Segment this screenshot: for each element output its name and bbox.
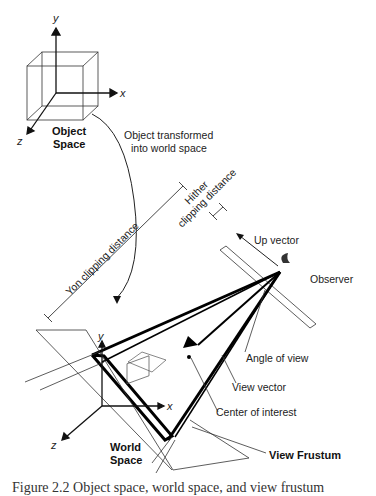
world-box	[127, 352, 166, 384]
view-vector-arrow-icon	[183, 336, 198, 348]
yon-label: Yon clipping distance	[63, 219, 141, 297]
angle-of-view-label: Angle of view	[246, 352, 309, 364]
view-vector-label: View vector	[232, 381, 287, 393]
object-space-axes	[27, 28, 117, 134]
world-z-label: z	[50, 439, 57, 451]
center-of-interest-point	[187, 355, 191, 359]
observer-eye-icon	[281, 253, 290, 263]
world-x-label: x	[166, 400, 173, 412]
object-y-label: y	[52, 12, 60, 24]
object-space-label-1: Object	[52, 125, 87, 137]
hither-dimension	[209, 203, 227, 220]
up-vector-arrow-icon	[236, 233, 244, 240]
observer-label: Observer	[310, 273, 354, 285]
up-vector-label: Up vector	[254, 234, 299, 246]
object-z-label: z	[16, 135, 23, 147]
figure-caption: Figure 2.2 Object space, world space, an…	[12, 480, 324, 496]
transform-label-2: into world space	[131, 142, 207, 154]
object-x-label: x	[119, 87, 126, 99]
transform-curve	[92, 114, 136, 298]
center-of-interest-label: Center of interest	[216, 406, 297, 418]
world-space-label-2: Space	[110, 454, 142, 466]
object-space-label-2: Space	[53, 138, 85, 150]
object-space-cube	[27, 52, 98, 120]
view-frustum-label: View Frustum	[269, 449, 341, 461]
transform-arrowhead-icon	[113, 296, 121, 304]
world-y-label: y	[97, 330, 105, 342]
world-space-label-1: World	[110, 441, 141, 453]
transform-label-1: Object transformed	[124, 129, 213, 141]
leader-lines	[191, 290, 266, 453]
